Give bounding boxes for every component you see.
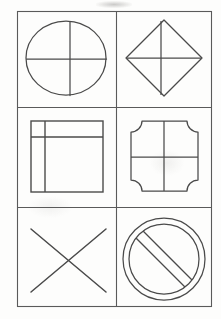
figure-prohibition-sign[interactable] xyxy=(123,218,205,300)
grid-frame xyxy=(18,12,212,307)
figure-square-with-corner-partition[interactable] xyxy=(31,121,103,192)
prohibition-bar-edge-upper xyxy=(136,238,185,287)
worksheet-sheet xyxy=(0,0,221,319)
figure-x-cross[interactable] xyxy=(31,229,106,292)
prohibition-inner-circle xyxy=(129,224,199,294)
circle-outline xyxy=(26,21,106,95)
shapes-grid xyxy=(0,0,221,319)
square-outline xyxy=(31,121,103,192)
prohibition-outer-circle xyxy=(123,218,205,300)
figure-concave-corner-square-with-cross[interactable] xyxy=(131,121,198,191)
figure-diamond-with-diagonals[interactable] xyxy=(126,20,202,96)
figure-circle-with-crosshair[interactable] xyxy=(26,21,107,96)
prohibition-bar-edge-lower xyxy=(143,231,192,280)
